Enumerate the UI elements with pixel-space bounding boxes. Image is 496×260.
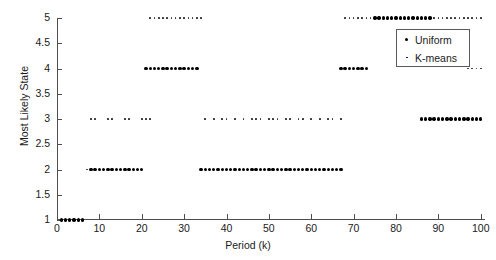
data-point-uniform	[93, 168, 96, 171]
data-point-kmeans	[438, 17, 440, 19]
x-axis-tick-label: 20	[122, 222, 162, 234]
data-point-kmeans	[340, 118, 342, 120]
data-point-uniform	[441, 117, 444, 120]
data-point-kmeans	[319, 118, 321, 120]
data-point-kmeans	[277, 118, 279, 120]
data-point-uniform	[420, 117, 423, 120]
data-point-uniform	[250, 168, 253, 171]
data-point-uniform	[254, 168, 257, 171]
data-point-uniform	[454, 117, 457, 120]
data-point-kmeans	[349, 17, 351, 19]
data-point-kmeans	[260, 118, 262, 120]
data-point-uniform	[399, 16, 402, 19]
legend-label-uniform: Uniform	[415, 34, 452, 46]
data-point-kmeans	[141, 118, 143, 120]
data-point-uniform	[339, 67, 342, 70]
legend-marker-uniform-icon	[405, 38, 408, 41]
data-point-uniform	[394, 16, 397, 19]
data-point-uniform	[127, 168, 130, 171]
data-point-uniform	[81, 218, 84, 221]
data-point-kmeans	[196, 17, 198, 19]
x-axis-tick-label: 100	[461, 222, 496, 234]
data-point-kmeans	[285, 118, 287, 120]
data-point-kmeans	[450, 17, 452, 19]
y-axis-tick-label: 4.5	[10, 37, 50, 47]
data-point-kmeans	[446, 17, 448, 19]
data-point-uniform	[288, 168, 291, 171]
data-point-kmeans	[158, 17, 160, 19]
data-point-uniform	[178, 67, 181, 70]
x-axis-tick-label: 10	[79, 222, 119, 234]
y-axis-tick-label: 2	[10, 164, 50, 174]
data-point-uniform	[437, 117, 440, 120]
data-point-kmeans	[433, 17, 435, 19]
chart-legend: Uniform K-means	[396, 29, 470, 67]
x-axis-tick-label: 50	[249, 222, 289, 234]
data-point-kmeans	[361, 17, 363, 19]
x-axis-tick-label: 40	[207, 222, 247, 234]
data-point-kmeans	[145, 118, 147, 120]
data-point-uniform	[77, 218, 80, 221]
data-point-uniform	[106, 168, 109, 171]
legend-entry-kmeans: K-means	[397, 48, 471, 67]
data-point-kmeans	[213, 118, 215, 120]
data-point-uniform	[161, 67, 164, 70]
x-axis-tick-label: 0	[37, 222, 77, 234]
data-point-kmeans	[289, 118, 291, 120]
data-point-uniform	[386, 16, 389, 19]
x-axis-title: Period (k)	[0, 239, 496, 251]
data-point-uniform	[475, 117, 478, 120]
data-point-uniform	[428, 117, 431, 120]
data-point-uniform	[165, 67, 168, 70]
x-axis-tick-label: 70	[334, 222, 374, 234]
data-point-uniform	[322, 168, 325, 171]
data-point-uniform	[182, 67, 185, 70]
data-point-kmeans	[90, 118, 92, 120]
data-point-uniform	[110, 168, 113, 171]
data-point-kmeans	[463, 17, 465, 19]
data-point-uniform	[445, 117, 448, 120]
x-axis-tick-label: 90	[418, 222, 458, 234]
data-point-uniform	[195, 67, 198, 70]
y-axis-title: Most Likely State	[18, 16, 30, 196]
x-axis-tick-label: 80	[376, 222, 416, 234]
data-point-uniform	[284, 168, 287, 171]
data-point-kmeans	[480, 17, 482, 19]
data-point-kmeans	[179, 17, 181, 19]
data-point-uniform	[72, 218, 75, 221]
data-point-kmeans	[327, 118, 329, 120]
data-point-uniform	[377, 16, 380, 19]
data-point-kmeans	[366, 17, 368, 19]
data-point-uniform	[411, 16, 414, 19]
y-axis-tick-label: 1.5	[10, 189, 50, 199]
data-point-uniform	[305, 168, 308, 171]
data-point-kmeans	[149, 17, 151, 19]
data-point-uniform	[233, 168, 236, 171]
data-point-uniform	[420, 16, 423, 19]
data-point-kmeans	[94, 118, 96, 120]
y-axis-tick-label: 4	[10, 63, 50, 73]
scatter-plot-figure: 11.522.533.544.55 0102030405060708090100…	[0, 0, 496, 260]
data-point-uniform	[216, 168, 219, 171]
data-point-kmeans	[344, 17, 346, 19]
data-point-uniform	[416, 16, 419, 19]
data-point-kmeans	[272, 118, 274, 120]
data-point-uniform	[373, 16, 376, 19]
data-point-uniform	[89, 168, 92, 171]
data-point-uniform	[360, 67, 363, 70]
data-point-uniform	[462, 117, 465, 120]
data-point-uniform	[144, 67, 147, 70]
data-point-uniform	[199, 168, 202, 171]
data-point-kmeans	[471, 17, 473, 19]
data-point-uniform	[60, 218, 63, 221]
data-point-kmeans	[166, 17, 168, 19]
data-point-uniform	[382, 16, 385, 19]
x-axis-tick-label: 30	[164, 222, 204, 234]
data-point-uniform	[267, 168, 270, 171]
data-point-kmeans	[255, 118, 257, 120]
data-point-kmeans	[162, 17, 164, 19]
data-point-uniform	[343, 67, 346, 70]
data-point-kmeans	[128, 118, 130, 120]
data-point-kmeans	[234, 118, 236, 120]
data-point-kmeans	[357, 17, 359, 19]
